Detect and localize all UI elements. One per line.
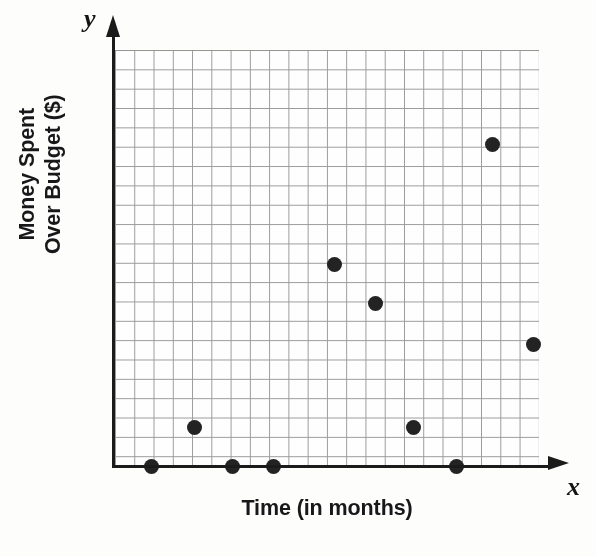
paper-grain-overlay xyxy=(115,50,539,466)
x-axis-title: Time (in months) xyxy=(115,496,539,521)
plot-grid-area xyxy=(115,50,539,466)
scatter-plot-figure: y x Money Spent Over Budget ($) Time (in… xyxy=(0,0,596,556)
y-axis-title: Money Spent Over Budget ($) xyxy=(14,24,66,324)
y-axis-letter: y xyxy=(84,6,96,32)
x-axis-arrow-icon xyxy=(548,456,569,470)
x-axis-letter: x xyxy=(567,474,580,500)
data-point xyxy=(368,296,383,311)
data-point xyxy=(485,137,500,152)
x-axis-line xyxy=(112,465,552,468)
data-point xyxy=(406,420,421,435)
y-axis-title-line-1: Money Spent xyxy=(14,24,40,324)
data-point xyxy=(327,257,342,272)
data-point xyxy=(187,420,202,435)
y-axis-line xyxy=(112,34,115,468)
y-axis-title-line-2: Over Budget ($) xyxy=(40,24,66,324)
data-point xyxy=(526,337,541,352)
y-axis-arrow-icon xyxy=(106,15,120,37)
